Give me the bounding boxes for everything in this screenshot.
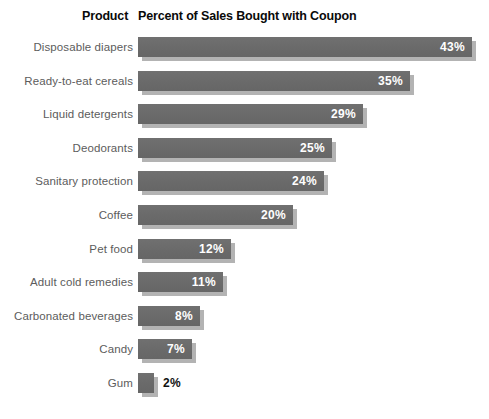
column-header-product: Product xyxy=(82,8,128,24)
category-label: Candy xyxy=(0,339,133,359)
category-label: Pet food xyxy=(0,239,133,259)
bar-fill: 8% xyxy=(138,306,200,326)
bar-value-label: 43% xyxy=(440,37,465,57)
category-label: Adult cold remedies xyxy=(0,272,133,292)
bar-fill: 11% xyxy=(138,272,223,292)
category-label: Coffee xyxy=(0,205,133,225)
bar-row: Disposable diapers43% xyxy=(0,37,489,61)
bar xyxy=(138,373,154,393)
bar-row: Ready-to-eat cereals35% xyxy=(0,71,489,95)
bar: 25% xyxy=(138,138,332,158)
bar-row: Coffee20% xyxy=(0,205,489,229)
bar-row: Gum2% xyxy=(0,373,489,397)
bar-chart: Product Percent of Sales Bought with Cou… xyxy=(0,0,489,419)
category-label: Sanitary protection xyxy=(0,171,133,191)
bar-value-label: 11% xyxy=(192,272,216,292)
bar: 29% xyxy=(138,104,363,124)
bar-fill: 24% xyxy=(138,171,324,191)
bar: 8% xyxy=(138,306,200,326)
bar: 20% xyxy=(138,205,293,225)
bar-fill xyxy=(138,373,154,393)
bar-fill: 12% xyxy=(138,239,231,259)
category-label: Gum xyxy=(0,373,133,393)
bar-value-label: 29% xyxy=(331,104,356,124)
bar-fill: 35% xyxy=(138,71,410,91)
chart-header: Product Percent of Sales Bought with Cou… xyxy=(0,8,489,26)
bar-value-label: 8% xyxy=(175,306,193,326)
category-label: Deodorants xyxy=(0,138,133,158)
bar-fill: 29% xyxy=(138,104,363,124)
bar: 12% xyxy=(138,239,231,259)
bar-value-label: 20% xyxy=(261,205,286,225)
bar: 7% xyxy=(138,339,192,359)
bar-fill: 7% xyxy=(138,339,192,359)
bar-row: Deodorants25% xyxy=(0,138,489,162)
category-label: Liquid detergents xyxy=(0,104,133,124)
category-label: Ready-to-eat cereals xyxy=(0,71,133,91)
bar-row: Liquid detergents29% xyxy=(0,104,489,128)
bar-value-label: 7% xyxy=(167,339,185,359)
bar-fill: 43% xyxy=(138,37,472,57)
bar-value-label: 25% xyxy=(300,138,325,158)
bar: 11% xyxy=(138,272,223,292)
bar-row: Candy7% xyxy=(0,339,489,363)
bar-value-label: 35% xyxy=(378,71,403,91)
bar-row: Adult cold remedies11% xyxy=(0,272,489,296)
column-header-metric: Percent of Sales Bought with Coupon xyxy=(138,8,356,24)
bar-value-label: 2% xyxy=(163,373,181,393)
category-label: Disposable diapers xyxy=(0,37,133,57)
bar-value-label: 24% xyxy=(292,171,317,191)
bar-fill: 20% xyxy=(138,205,293,225)
bar: 24% xyxy=(138,171,324,191)
bar-row: Sanitary protection24% xyxy=(0,171,489,195)
bar-fill: 25% xyxy=(138,138,332,158)
bar: 43% xyxy=(138,37,472,57)
category-label: Carbonated beverages xyxy=(0,306,133,326)
bar-row: Carbonated beverages8% xyxy=(0,306,489,330)
bar-value-label: 12% xyxy=(199,239,224,259)
bar-row: Pet food12% xyxy=(0,239,489,263)
bar: 35% xyxy=(138,71,410,91)
